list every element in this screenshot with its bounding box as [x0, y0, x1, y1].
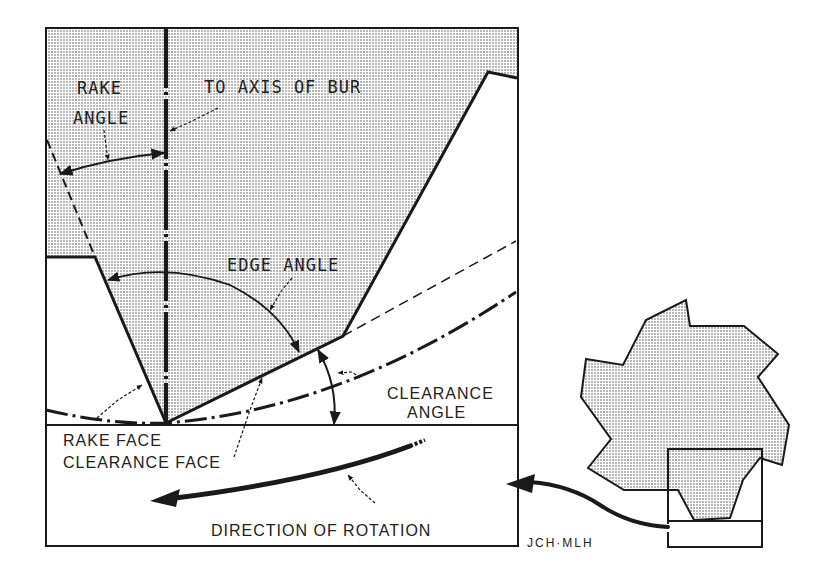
rotation-leader [348, 475, 375, 503]
clearance-angle-label: CLEARANCE [387, 385, 494, 402]
enlarged-blade-view: RAKE ANGLE TO AXIS OF BUR EDGE ANGLE CLE… [46, 28, 518, 546]
rotation-arrow-tail [410, 440, 425, 446]
inset-pointer-arrowhead [506, 474, 535, 493]
rake-angle-label-2: ANGLE [73, 108, 129, 128]
rotation-arrowhead [150, 489, 180, 507]
rake-angle-label: RAKE [77, 78, 122, 98]
clearance-face-label: CLEARANCE FACE [63, 454, 221, 471]
bur-diagram: RAKE ANGLE TO AXIS OF BUR EDGE ANGLE CLE… [0, 0, 827, 582]
clearance-angle-arc [318, 350, 335, 424]
edge-angle-label: EDGE ANGLE [227, 255, 339, 275]
bur-overview: JCH·MLH [506, 300, 789, 550]
rake-face-label: RAKE FACE [63, 432, 162, 449]
clearance-angle-label-2: ANGLE [407, 404, 466, 421]
clearance-face-leader [234, 378, 262, 457]
axis-of-bur-label: TO AXIS OF BUR [204, 77, 361, 97]
author-signature: JCH·MLH [527, 536, 594, 550]
bur-cross-section [581, 300, 789, 520]
direction-of-rotation-label: DIRECTION OF ROTATION [211, 522, 431, 539]
rake-face-leader [97, 385, 142, 418]
